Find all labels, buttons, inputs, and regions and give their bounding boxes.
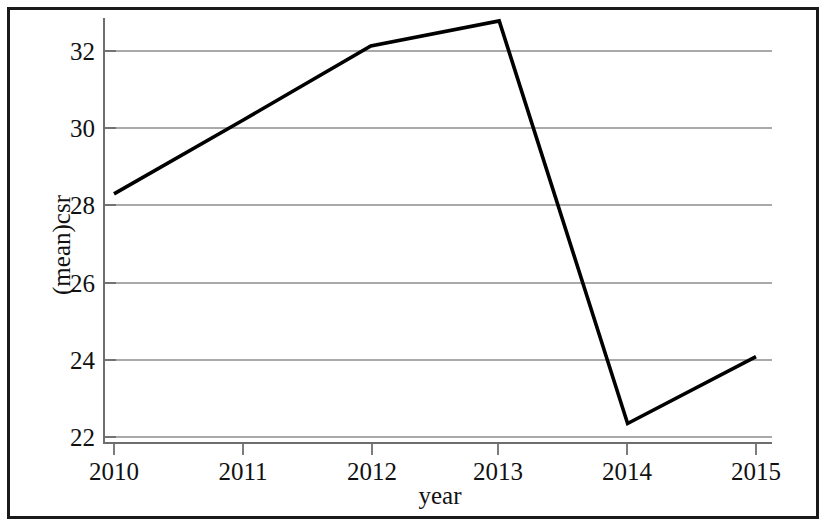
x-tick-label-2011: 2011: [218, 458, 267, 485]
gridlines: [103, 51, 772, 437]
y-tickmarks: [104, 51, 116, 437]
y-axis-title: (mean)csr: [48, 194, 76, 295]
data-series-line: [114, 21, 756, 424]
y-tick-label-24: 24: [70, 347, 96, 374]
axis-spines: [103, 18, 772, 443]
y-tick-label-30: 30: [70, 115, 95, 142]
y-tick-label-22: 22: [70, 424, 95, 451]
x-tick-labels: 2010 2011 2012 2013 2014 2015: [89, 458, 781, 485]
x-tick-label-2010: 2010: [89, 458, 139, 485]
x-tick-label-2014: 2014: [602, 458, 653, 485]
x-tick-label-2013: 2013: [473, 458, 523, 485]
y-tick-label-32: 32: [70, 38, 95, 65]
x-tickmarks: [114, 443, 756, 455]
x-axis-title: year: [418, 482, 462, 509]
x-tick-label-2015: 2015: [731, 458, 781, 485]
x-tick-label-2012: 2012: [347, 458, 397, 485]
